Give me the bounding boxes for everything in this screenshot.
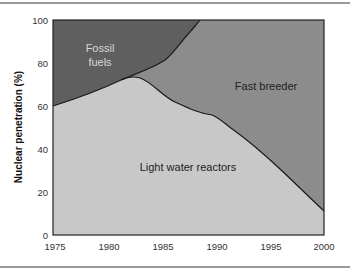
x-tick-1980: 1980 <box>98 241 119 252</box>
y-tick-100: 100 <box>32 15 48 26</box>
y-tick-40: 40 <box>37 144 48 155</box>
light-water-reactors-label: Light water reactors <box>140 161 237 173</box>
y-tick-80: 80 <box>37 58 48 69</box>
fast-breeder-label: Fast breeder <box>235 80 298 92</box>
y-tick-20: 20 <box>37 187 48 198</box>
x-tick-1985: 1985 <box>152 241 173 252</box>
y-tick-0: 0 <box>43 230 48 241</box>
chart: 100 80 60 40 20 0 1975 1980 1985 1990 19… <box>0 0 350 271</box>
x-tick-2000: 2000 <box>313 241 334 252</box>
y-tick-60: 60 <box>37 101 48 112</box>
y-axis-label: Nuclear penetration (%) <box>13 71 24 183</box>
x-tick-1990: 1990 <box>206 241 227 252</box>
fossil-fuels-label-line2: fuels <box>88 56 112 68</box>
fossil-fuels-label-line1: Fossil <box>86 42 115 54</box>
x-tick-1995: 1995 <box>260 241 281 252</box>
x-tick-1975: 1975 <box>44 241 65 252</box>
